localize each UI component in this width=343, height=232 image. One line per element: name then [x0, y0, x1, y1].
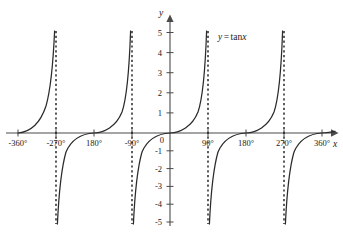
y-axis	[166, 15, 173, 227]
equation-operator: =	[222, 32, 230, 42]
tan-curve	[18, 31, 335, 224]
x-tick-label-minus-360: -360°	[9, 139, 28, 148]
x-tick-label-minus-180: 180°	[86, 139, 102, 148]
x-tick-label-180: 180°	[238, 139, 254, 148]
x-tick-label-360: 360°	[314, 139, 330, 148]
tan-branch-2	[57, 31, 130, 224]
y-tick-label-minus-2: -2	[149, 164, 162, 173]
x-axis-label: x	[333, 140, 337, 150]
y-tick-label-minus-3: -3	[149, 182, 162, 191]
y-tick-label-minus-5: -5	[149, 218, 162, 227]
x-tick-label-minus-90: -90°	[125, 139, 140, 148]
y-tick-label-minus-1: -1	[149, 147, 162, 156]
plot-area	[0, 0, 343, 232]
tan-branch-4	[209, 31, 282, 224]
equation-variable: x	[242, 32, 246, 42]
tan-branch-1	[18, 31, 55, 133]
tangent-function-chart: -360° -270° 180° -90° 90° 180° 270° 360°…	[0, 0, 343, 232]
y-tick-label-minus-4: -4	[149, 200, 162, 209]
x-tick-label-minus-270: -270°	[47, 139, 66, 148]
equation-function: tan	[231, 32, 243, 42]
equation-annotation: y=tanx	[218, 33, 246, 43]
y-tick-label-3: 3	[154, 68, 162, 77]
x-tick-label-270: 270°	[276, 139, 292, 148]
y-tick-label-0: 0	[156, 136, 164, 145]
y-tick-label-2: 2	[154, 89, 162, 98]
y-tick-label-1: 1	[154, 109, 162, 118]
y-axis-label: y	[159, 9, 163, 19]
y-tick-label-4: 4	[154, 48, 162, 57]
x-tick-label-90: 90°	[202, 139, 214, 148]
y-tick-label-5: 5	[154, 28, 162, 37]
